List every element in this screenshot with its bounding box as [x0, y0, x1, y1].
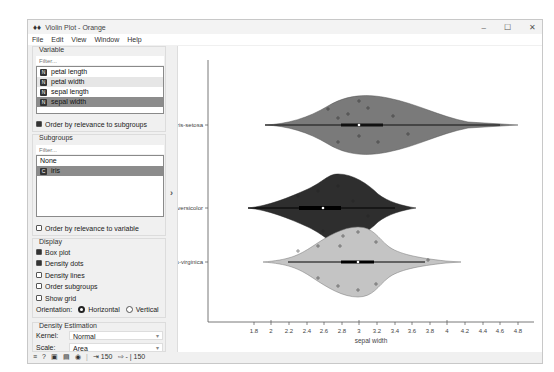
subgroups-filter-input[interactable]: Filter... — [36, 145, 164, 154]
control-panel: Variable Filter... Npetal length Npetal … — [30, 46, 168, 352]
orientation-label: Orientation: — [36, 306, 72, 313]
menu-bar: File Edit View Window Help — [28, 34, 542, 45]
violin-plot: Iris-setosa Iris-versicolor Iris-virgini… — [178, 46, 542, 352]
horizontal-radio[interactable] — [78, 306, 85, 313]
numeric-icon: N — [40, 99, 47, 106]
subgroup-item-none[interactable]: None — [37, 156, 163, 166]
svg-text:3.2: 3.2 — [373, 328, 382, 334]
checkbox-checked-icon — [36, 121, 42, 127]
numeric-icon: N — [40, 69, 47, 76]
chevron-down-icon: ▾ — [156, 332, 159, 341]
plot-area: Iris-setosa Iris-versicolor Iris-virgini… — [177, 46, 542, 352]
checkbox-checked-icon — [36, 260, 42, 266]
violin-app-icon: ♦♦ — [33, 23, 41, 32]
menu-help[interactable]: Help — [123, 34, 145, 45]
order-by-relevance-variable-checkbox[interactable]: Order by relevance to variable — [36, 223, 139, 233]
status-bar: ≡ ? ▣ ▤ ◉ | ⇥ 150 ⇨ - | 150 — [28, 350, 542, 363]
svg-text:1.8: 1.8 — [250, 328, 259, 334]
svg-text:3.4: 3.4 — [391, 328, 400, 334]
checkbox-unchecked-icon — [36, 283, 42, 289]
subgroups-header: Subgroups — [39, 134, 73, 141]
input-count: 150 — [101, 353, 113, 360]
visual-settings-icon[interactable]: ◉ — [75, 353, 81, 361]
expand-panel-chevron-icon[interactable]: › — [170, 188, 173, 198]
variable-header: Variable — [39, 46, 64, 53]
output-icon: ⇨ — [118, 353, 124, 361]
svg-text:3.6: 3.6 — [408, 328, 417, 334]
output-count: - | 150 — [126, 353, 146, 360]
svg-text:3.8: 3.8 — [426, 328, 435, 334]
variable-item-sepal-width[interactable]: Nsepal width — [37, 97, 163, 107]
kernel-label: Kernel: — [36, 332, 58, 339]
svg-text:4.4: 4.4 — [479, 328, 488, 334]
title-bar: ♦♦ Violin Plot - Orange – ☐ ✕ — [28, 20, 542, 34]
menu-edit[interactable]: Edit — [47, 34, 67, 45]
order-subgroups-checkbox[interactable]: Order subgroups — [36, 281, 98, 291]
svg-text:4.6: 4.6 — [496, 328, 505, 334]
svg-text:2.6: 2.6 — [320, 328, 329, 334]
show-grid-checkbox[interactable]: Show grid — [36, 293, 76, 303]
display-box: Display Box plot Density dots Density li… — [32, 238, 166, 318]
density-lines-checkbox[interactable]: Density lines — [36, 270, 85, 280]
variable-item-sepal-length[interactable]: Nsepal length — [37, 87, 163, 97]
variable-box: Variable Filter... Npetal length Npetal … — [32, 46, 166, 132]
save-image-icon[interactable]: ▣ — [51, 353, 58, 361]
svg-text:2.8: 2.8 — [338, 328, 347, 334]
subgroup-item-iris[interactable]: Ciris — [37, 166, 163, 176]
variable-item-petal-length[interactable]: Npetal length — [37, 67, 163, 77]
checkbox-checked-icon — [36, 249, 42, 255]
svg-text:4.8: 4.8 — [514, 328, 523, 334]
density-dots-checkbox[interactable]: Density dots — [36, 258, 84, 268]
svg-text:3: 3 — [357, 328, 361, 334]
category-label-versicolor: Iris-versicolor — [178, 205, 203, 211]
report-icon[interactable]: ▤ — [63, 353, 70, 361]
close-button[interactable]: ✕ — [529, 23, 536, 32]
svg-text:2: 2 — [269, 328, 273, 334]
maximize-button[interactable]: ☐ — [504, 23, 511, 32]
menu-window[interactable]: Window — [90, 34, 123, 45]
checkbox-unchecked-icon — [36, 225, 42, 231]
orientation-row: Orientation: Horizontal Vertical — [36, 304, 159, 314]
vertical-radio[interactable] — [126, 306, 133, 313]
variable-filter-input[interactable]: Filter... — [36, 56, 164, 65]
subgroups-box: Subgroups Filter... None Ciris Order by … — [32, 134, 166, 236]
x-axis-label: sepal width — [355, 337, 388, 345]
help-icon[interactable]: ? — [42, 353, 46, 360]
x-tick-labels: 1.822.22.42.62.833.23.43.63.844.24.44.64… — [250, 328, 523, 334]
numeric-icon: N — [40, 79, 47, 86]
subgroups-list[interactable]: None Ciris — [36, 155, 164, 217]
categorical-icon: C — [40, 168, 47, 175]
menu-icon[interactable]: ≡ — [33, 353, 37, 360]
category-label-virginica: Iris-virginica — [178, 259, 204, 265]
density-estimation-header: Density Estimation — [39, 322, 97, 329]
box-plot-checkbox[interactable]: Box plot — [36, 247, 70, 257]
svg-text:4.2: 4.2 — [461, 328, 470, 334]
checkbox-unchecked-icon — [36, 295, 42, 301]
variable-item-petal-width[interactable]: Npetal width — [37, 77, 163, 87]
svg-text:2.2: 2.2 — [285, 328, 294, 334]
menu-view[interactable]: View — [67, 34, 90, 45]
numeric-icon: N — [40, 89, 47, 96]
order-by-relevance-subgroups-checkbox[interactable]: Order by relevance to subgroups — [36, 119, 147, 129]
separator: | — [86, 353, 88, 360]
kernel-combo[interactable]: Normal▾ — [69, 331, 163, 340]
app-window: ♦♦ Violin Plot - Orange – ☐ ✕ File Edit … — [27, 19, 543, 364]
input-icon: ⇥ — [93, 353, 99, 361]
density-estimation-box: Density Estimation Kernel: Normal▾ Scale… — [32, 322, 166, 352]
category-label-setosa: Iris-setosa — [178, 122, 204, 128]
window-title: Violin Plot - Orange — [45, 24, 106, 31]
svg-text:4: 4 — [445, 328, 449, 334]
display-header: Display — [39, 238, 62, 245]
svg-text:2.4: 2.4 — [303, 328, 312, 334]
variable-list[interactable]: Npetal length Npetal width Nsepal length… — [36, 66, 164, 114]
menu-file[interactable]: File — [28, 34, 47, 45]
minimize-button[interactable]: – — [482, 23, 486, 32]
checkbox-unchecked-icon — [36, 272, 42, 278]
